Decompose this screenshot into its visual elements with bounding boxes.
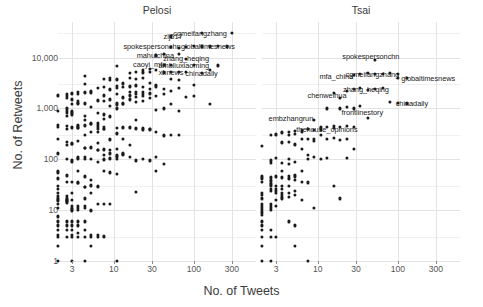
point-label: chenweihua: [307, 91, 346, 100]
data-point: [66, 220, 69, 223]
data-point: [66, 96, 69, 99]
data-point: [96, 99, 99, 102]
y-axis-title: No. of Retweets: [11, 45, 25, 205]
scatter-plot-figure: 1101001,00010,000 No. of Retweets No. of…: [0, 0, 483, 307]
data-point: [141, 128, 144, 131]
data-point: [77, 235, 80, 238]
data-point: [56, 244, 59, 247]
gridline-horizontal: [58, 159, 256, 160]
data-point: [339, 197, 342, 200]
data-point: [71, 235, 74, 238]
data-point: [230, 32, 233, 35]
data-point: [155, 85, 158, 88]
data-point: [135, 95, 138, 98]
data-point: [260, 214, 263, 217]
data-point: [287, 191, 290, 194]
point-label: mfa_china: [319, 72, 353, 81]
panel-pelosi: zlj517cgmeifangzhangspokespersonchngloba…: [58, 22, 256, 261]
data-point: [66, 144, 69, 147]
data-point: [333, 184, 336, 187]
data-point: [83, 91, 86, 94]
data-point: [275, 235, 278, 238]
data-point: [281, 169, 284, 172]
data-point: [216, 64, 219, 67]
gridline-horizontal: [262, 159, 460, 160]
data-point: [66, 229, 69, 232]
data-point: [116, 93, 119, 96]
data-point: [109, 78, 112, 81]
data-point: [103, 86, 106, 89]
data-point: [300, 180, 303, 183]
data-point: [77, 127, 80, 130]
data-point: [300, 198, 303, 201]
data-point: [300, 147, 303, 150]
data-point: [170, 133, 173, 136]
data-point: [71, 180, 74, 183]
data-point: [109, 98, 112, 101]
data-point: [71, 229, 74, 232]
data-point: [109, 88, 112, 91]
data-point: [56, 152, 59, 155]
data-point: [56, 259, 59, 262]
data-point: [116, 107, 119, 110]
data-point: [90, 158, 93, 161]
data-point: [352, 147, 355, 150]
data-point: [155, 68, 158, 71]
data-point: [162, 163, 165, 166]
gridline-minor-horizontal: [58, 186, 256, 187]
data-point: [77, 169, 80, 172]
data-point: [294, 144, 297, 147]
x-tick-mark: [436, 261, 437, 264]
data-point: [71, 224, 74, 227]
data-point: [313, 139, 316, 142]
data-point: [90, 123, 93, 126]
data-point: [162, 93, 165, 96]
data-point: [109, 152, 112, 155]
data-point: [307, 181, 310, 184]
data-point: [129, 144, 132, 147]
data-point: [287, 163, 290, 166]
data-point: [103, 77, 106, 80]
data-point: [96, 160, 99, 163]
data-point: [170, 89, 173, 92]
data-point: [77, 93, 80, 96]
data-point: [294, 189, 297, 192]
data-point: [294, 224, 297, 227]
data-point: [103, 94, 106, 97]
data-point: [177, 87, 180, 90]
data-point: [83, 259, 86, 262]
data-point: [275, 191, 278, 194]
gridline-vertical: [114, 22, 115, 261]
data-point: [103, 113, 106, 116]
data-point: [56, 177, 59, 180]
data-point: [90, 130, 93, 133]
data-point: [148, 70, 151, 73]
data-point: [103, 148, 106, 151]
data-point: [260, 220, 263, 223]
data-point: [83, 158, 86, 161]
point-label: chinadaily: [185, 68, 217, 77]
x-axis-title: No. of Tweets: [0, 284, 483, 298]
data-point: [135, 85, 138, 88]
data-point: [56, 126, 59, 129]
data-point: [83, 102, 86, 105]
data-point: [135, 190, 138, 193]
data-point: [162, 107, 165, 110]
data-point: [141, 86, 144, 89]
data-point: [209, 103, 212, 106]
data-point: [77, 158, 80, 161]
data-point: [287, 220, 290, 223]
data-point: [56, 109, 59, 112]
data-point: [83, 229, 86, 232]
data-point: [307, 154, 310, 157]
data-point: [162, 88, 165, 91]
data-point: [129, 85, 132, 88]
data-point: [162, 134, 165, 137]
data-point: [116, 126, 119, 129]
data-point: [56, 215, 59, 218]
data-point: [90, 244, 93, 247]
data-point: [287, 196, 290, 199]
data-point: [83, 118, 86, 121]
x-tick-mark: [72, 261, 73, 264]
data-point: [77, 209, 80, 212]
